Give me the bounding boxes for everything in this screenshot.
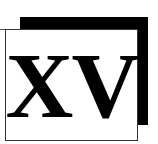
logo-text: XV	[6, 30, 137, 140]
logo-front-box: XV	[5, 29, 138, 141]
